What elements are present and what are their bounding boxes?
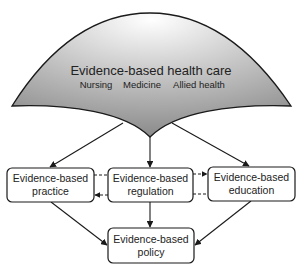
node-policy: Evidence-based policy [108, 228, 194, 263]
edge-healthcare-to-practice [50, 123, 123, 167]
edge-practice-to-policy [51, 202, 107, 245]
discipline-allied-health: Allied health [173, 79, 225, 90]
node-practice-line2: practice [32, 185, 69, 197]
discipline-nursing: Nursing [80, 79, 113, 90]
node-policy-line2: policy [138, 246, 166, 258]
node-regulation-line1: Evidence-based [113, 172, 188, 184]
node-regulation-line2: regulation [127, 185, 173, 197]
health-care-title: Evidence-based health care [70, 63, 231, 78]
node-education-line2: education [229, 184, 275, 196]
node-policy-line1: Evidence-based [113, 233, 188, 245]
node-practice: Evidence-based practice [7, 168, 94, 202]
node-regulation: Evidence-based regulation [108, 168, 193, 202]
edge-healthcare-to-education [172, 123, 249, 166]
diagram-canvas: Evidence-based health care Nursing Medic… [0, 0, 305, 273]
node-practice-line1: Evidence-based [13, 172, 88, 184]
discipline-medicine: Medicine [123, 79, 161, 90]
node-education-line1: Evidence-based [214, 171, 289, 183]
node-education: Evidence-based education [208, 167, 295, 201]
health-care-shape: Evidence-based health care Nursing Medic… [12, 13, 291, 137]
edge-education-to-policy [195, 201, 251, 245]
